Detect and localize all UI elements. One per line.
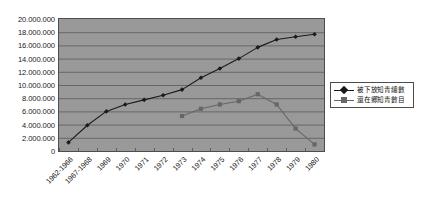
x-axis-tick-label: 1978	[265, 155, 283, 173]
x-axis-tick-label: 1975	[209, 155, 227, 173]
chart-legend: 被下放知青總數還在鄉知青數目	[330, 82, 414, 108]
x-axis-tick-label: 1972	[152, 155, 170, 173]
diamond-marker-icon	[333, 85, 355, 95]
x-axis-tick-label: 1977	[246, 155, 264, 173]
x-axis-tick-label: 1970	[114, 155, 132, 173]
x-axis-tick-label: 1979	[284, 155, 302, 173]
x-axis-tick-label: 1971	[133, 155, 151, 173]
x-axis-tick-label: 1980	[303, 155, 321, 173]
legend-item: 被下放知青總數	[333, 85, 411, 95]
legend-item-label: 被下放知青總數	[357, 85, 405, 95]
square-marker-icon	[333, 95, 355, 105]
x-axis-tick-label: 1974	[190, 155, 208, 173]
legend-item-label: 還在鄉知青數目	[357, 95, 405, 105]
x-axis-labels: 1962-19661967-19681969197019711972197319…	[0, 0, 424, 219]
x-axis-tick-label: 1976	[227, 155, 245, 173]
legend-item: 還在鄉知青數目	[333, 95, 411, 105]
chart-container: 20.000.00018.000.00016.000.00014.000.000…	[0, 0, 424, 219]
x-axis-tick-label: 1973	[171, 155, 189, 173]
x-axis-tick-label: 1969	[95, 155, 113, 173]
